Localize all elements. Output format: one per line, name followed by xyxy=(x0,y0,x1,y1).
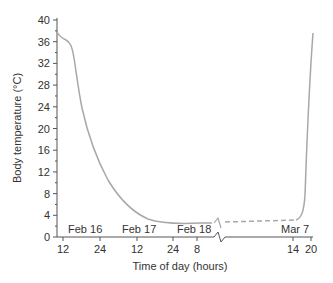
y-tick-label: 36 xyxy=(38,36,50,48)
date-label-feb16: Feb 16 xyxy=(68,223,102,235)
date-label-feb17: Feb 17 xyxy=(122,223,156,235)
y-tick-label: 28 xyxy=(38,79,50,91)
cooling-curve xyxy=(57,32,207,224)
y-tick-label: 4 xyxy=(44,209,50,221)
x-tick-label: 12 xyxy=(57,243,69,255)
x-axis: 1224122481420 xyxy=(57,232,317,255)
y-tick-label: 40 xyxy=(38,14,50,26)
y-axis: 0481216202428323640 xyxy=(38,14,57,243)
y-tick-label: 0 xyxy=(44,231,50,243)
y-tick-label: 32 xyxy=(38,57,50,69)
y-tick-label: 24 xyxy=(38,101,50,113)
x-axis-label: Time of day (hours) xyxy=(133,260,228,272)
x-tick-label: 24 xyxy=(94,243,106,255)
y-tick-label: 16 xyxy=(38,144,50,156)
temperature-chart: 0481216202428323640 Body temperature (°C… xyxy=(0,0,333,283)
y-tick-label: 12 xyxy=(38,166,50,178)
x-tick-label: 8 xyxy=(194,243,200,255)
date-label-feb18: Feb 18 xyxy=(177,223,211,235)
date-label-mar7: Mar 7 xyxy=(281,223,309,235)
rewarming-curve xyxy=(296,33,313,220)
y-axis-label: Body temperature (°C) xyxy=(11,73,23,183)
y-tick-label: 20 xyxy=(38,123,50,135)
x-tick-label: 14 xyxy=(287,243,299,255)
x-tick-label: 20 xyxy=(305,243,317,255)
curve-break-icon xyxy=(214,218,221,228)
axis-break-icon xyxy=(214,232,225,242)
y-tick-label: 8 xyxy=(44,188,50,200)
x-tick-label: 12 xyxy=(131,243,143,255)
x-tick-label: 24 xyxy=(167,243,179,255)
